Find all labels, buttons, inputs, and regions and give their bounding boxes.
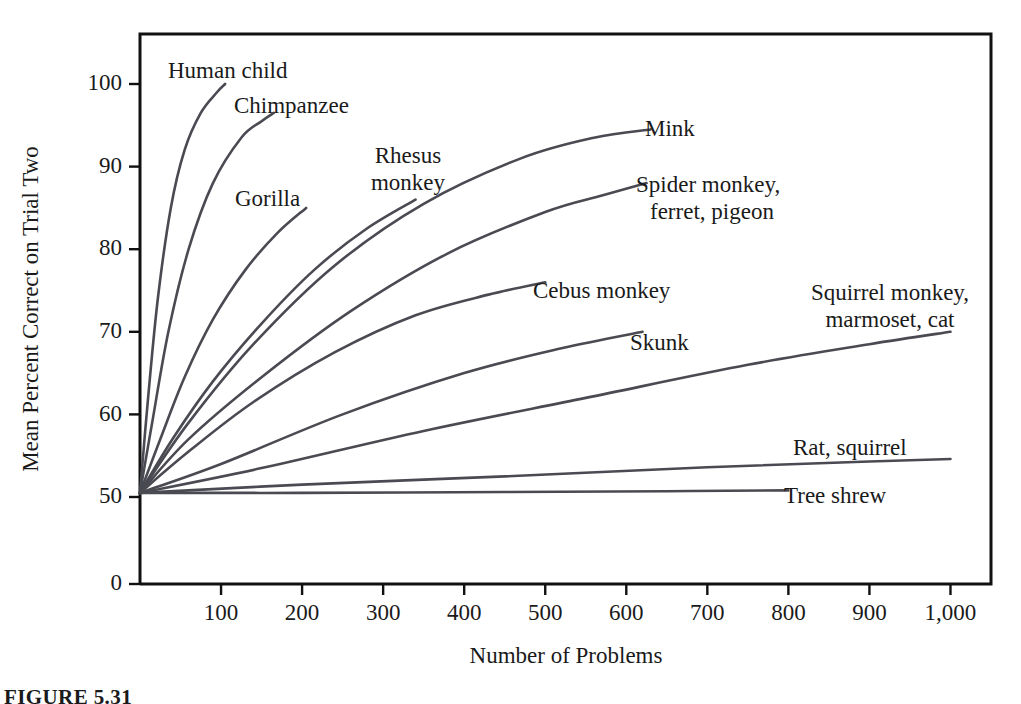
- x-tick-label: 400: [447, 600, 482, 625]
- figure-caption: FIGURE 5.31: [4, 685, 132, 704]
- series-label: Chimpanzee: [234, 93, 349, 118]
- y-tick-label: 50: [99, 483, 122, 508]
- y-tick-label: 100: [88, 70, 123, 95]
- figure-root: 0506070809010010020030040050060070080090…: [0, 0, 1021, 704]
- x-tick-label: 500: [528, 600, 563, 625]
- x-axis-title: Number of Problems: [470, 643, 663, 668]
- series-label: Cebus monkey: [533, 278, 671, 303]
- y-axis-title: Mean Percent Correct on Trial Two: [18, 146, 43, 472]
- series-label: Gorilla: [235, 186, 300, 211]
- series-label: Rat, squirrel: [793, 435, 907, 460]
- series-label: Human child: [168, 58, 288, 83]
- series-label: Skunk: [630, 330, 689, 355]
- x-tick-label: 300: [366, 600, 401, 625]
- x-tick-label: 900: [852, 600, 887, 625]
- x-tick-label: 1,000: [925, 600, 977, 625]
- x-tick-label: 700: [690, 600, 725, 625]
- x-tick-label: 600: [609, 600, 644, 625]
- y-tick-label: 90: [99, 153, 122, 178]
- x-tick-label: 200: [285, 600, 320, 625]
- learning-set-chart: 0506070809010010020030040050060070080090…: [0, 0, 1021, 704]
- y-tick-label: 70: [99, 318, 122, 343]
- x-tick-label: 100: [204, 600, 239, 625]
- x-tick-label: 800: [771, 600, 806, 625]
- y-tick-label: 60: [99, 401, 122, 426]
- series-label: Tree shrew: [784, 483, 886, 508]
- series-label: Mink: [645, 116, 695, 141]
- y-tick-label: 0: [111, 570, 123, 595]
- y-tick-label: 80: [99, 235, 122, 260]
